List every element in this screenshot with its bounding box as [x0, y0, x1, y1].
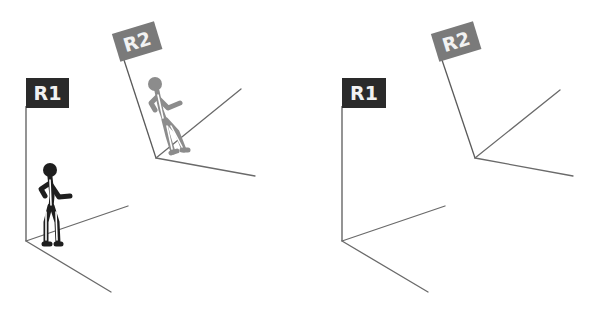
r2-flag: R2: [112, 21, 163, 62]
reference-frames-diagram: R1: [0, 0, 593, 310]
r1-axis-forward: [342, 241, 428, 292]
r2-vertical-axis: [124, 60, 156, 158]
r2-axis-forward: [156, 158, 255, 176]
r2-person-figure: [148, 77, 188, 153]
r2-axis-forward: [475, 158, 573, 176]
r2-person-head: [148, 77, 162, 91]
frame-r2-left: R2: [112, 21, 255, 176]
r1-axis-right: [342, 206, 445, 241]
right-panel: R1 R2: [342, 21, 573, 292]
r1-axis-forward: [26, 241, 111, 292]
left-panel: R1: [26, 21, 255, 292]
r1-flag: R1: [342, 78, 386, 108]
r1-flag-label: R1: [350, 82, 378, 104]
r1-flag: R1: [26, 78, 69, 108]
r2-flag: R2: [431, 21, 482, 62]
frame-r1-left: R1: [26, 78, 128, 292]
frame-r2-right: R2: [431, 21, 573, 176]
r2-vertical-axis: [442, 60, 475, 158]
r2-axis-right: [475, 90, 560, 158]
frame-r1-right: R1: [342, 78, 445, 292]
r1-axis-right: [26, 206, 128, 241]
r1-flag-label: R1: [34, 82, 62, 104]
